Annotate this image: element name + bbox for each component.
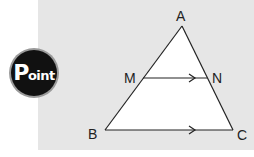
label-m: M <box>124 70 136 86</box>
label-c: C <box>237 127 247 143</box>
label-n: N <box>212 70 222 86</box>
label-b: B <box>88 126 97 142</box>
triangle-diagram: A M N B C <box>0 0 254 157</box>
label-a: A <box>176 8 186 24</box>
